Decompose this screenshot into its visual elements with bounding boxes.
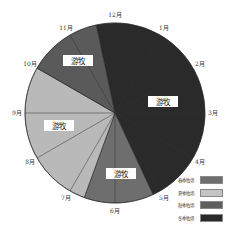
month-label: 12月 [108,11,122,19]
legend-label: 冬季牧场 [178,215,200,221]
legend-swatch [200,189,223,197]
nomadic-label: 游牧 [156,97,171,107]
legend-swatch [200,176,223,184]
month-label: 8月 [25,158,35,166]
month-label: 1月 [159,24,169,32]
nomadic-label: 游牧 [52,121,67,131]
month-label: 2月 [195,60,205,68]
legend-item-summer: 夏季牧场 [178,187,232,200]
month-label: 10月 [23,60,37,68]
month-label: 7月 [61,194,71,202]
legend-item-autumn: 秋季牧场 [178,199,232,212]
legend-label: 夏季牧场 [178,190,200,196]
month-label: 3月 [208,109,218,117]
nomadic-label: 游牧 [71,56,86,66]
nomadic-label: 游牧 [114,169,129,179]
month-label: 5月 [159,194,169,202]
month-label: 4月 [195,158,205,166]
month-label: 9月 [12,109,22,117]
legend-swatch [200,201,223,209]
legend-item-spring: 春季牧场 [178,174,232,187]
legend-item-winter: 冬季牧场 [178,212,232,225]
legend: 春季牧场 夏季牧场 秋季牧场 冬季牧场 [178,174,232,224]
legend-label: 春季牧场 [178,177,200,183]
legend-swatch [200,214,223,222]
legend-label: 秋季牧场 [178,202,200,208]
month-label: 6月 [110,207,120,215]
month-label: 11月 [59,24,73,32]
